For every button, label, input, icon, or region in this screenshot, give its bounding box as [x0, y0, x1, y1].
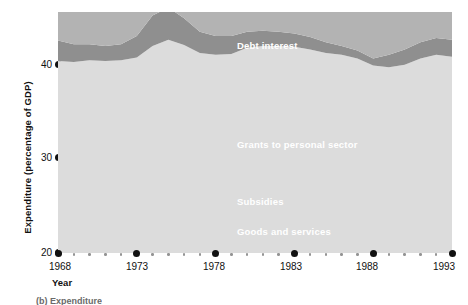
x-tick-dot-1975 — [167, 253, 170, 256]
x-tick-label-1988: 1988 — [347, 261, 387, 272]
x-tick-dot-1992 — [435, 253, 438, 256]
x-tick-dot-1976 — [183, 253, 186, 256]
x-tick-dot-1991 — [419, 253, 422, 256]
x-tick-label-1993: 1993 — [424, 261, 464, 272]
x-tick-dot-1972 — [120, 253, 123, 256]
x-tick-dot-1969 — [73, 253, 76, 256]
y-tick-label-20: 20 — [30, 248, 52, 258]
x-tick-dot-1978 — [212, 250, 219, 257]
x-axis-tick-dots — [58, 250, 452, 260]
x-tick-dot-1980 — [246, 253, 249, 256]
x-tick-dot-1988 — [370, 250, 377, 257]
series-label-0: Debt interest — [237, 40, 298, 51]
x-tick-label-1973: 1973 — [117, 261, 157, 272]
x-tick-dot-1986 — [340, 253, 343, 256]
x-tick-label-1978: 1978 — [194, 261, 234, 272]
x-tick-dot-1993 — [449, 250, 456, 257]
series-label-3: Goods and services — [237, 226, 331, 237]
x-tick-dot-1990 — [403, 253, 406, 256]
y-tick-label-30: 30 — [30, 153, 52, 163]
x-tick-label-1968: 1968 — [40, 261, 80, 272]
x-tick-dot-1979 — [230, 253, 233, 256]
x-tick-dot-1973 — [133, 250, 140, 257]
x-axis-title: Year — [52, 277, 72, 288]
x-tick-dot-1970 — [88, 253, 91, 256]
x-tick-dot-1977 — [199, 253, 202, 256]
x-tick-dot-1984 — [309, 253, 312, 256]
x-tick-dot-1989 — [388, 253, 391, 256]
figure-caption: (b) Expenditure — [36, 296, 102, 305]
x-tick-dot-1987 — [356, 253, 359, 256]
y-tick-label-40: 40 — [30, 60, 52, 70]
series-label-1: Grants to personal sector — [237, 139, 358, 150]
x-tick-dot-1971 — [104, 253, 107, 256]
x-tick-dot-1981 — [262, 253, 265, 256]
x-tick-dot-1982 — [277, 253, 280, 256]
x-tick-dot-1974 — [151, 253, 154, 256]
x-tick-dot-1983 — [291, 250, 298, 257]
x-tick-dot-1985 — [325, 253, 328, 256]
x-tick-dot-1968 — [55, 250, 62, 257]
x-tick-label-1983: 1983 — [271, 261, 311, 272]
series-label-2: Subsidies — [237, 196, 284, 207]
stacked-area-chart: Expenditure (percentage of GDP) 403020 D… — [0, 0, 468, 305]
